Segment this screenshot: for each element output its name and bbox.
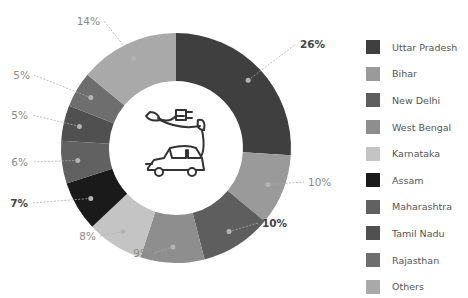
legend-swatch	[366, 200, 380, 214]
data-label: 8%	[79, 230, 96, 242]
data-label: 9%	[133, 247, 150, 259]
data-label: 7%	[10, 197, 28, 209]
legend-item: New Delhi	[366, 87, 457, 114]
legend-item: Karnataka	[366, 140, 457, 167]
legend-swatch	[366, 67, 380, 81]
data-label: 6%	[11, 156, 28, 168]
legend-swatch	[366, 280, 380, 294]
legend-item: Rajasthan	[366, 247, 457, 274]
legend-label: Assam	[392, 175, 423, 186]
legend-item: Uttar Pradesh	[366, 34, 457, 61]
legend-swatch	[366, 226, 380, 240]
legend-label: Tamil Nadu	[392, 228, 445, 239]
legend-label: New Delhi	[392, 95, 440, 106]
legend-swatch	[366, 253, 380, 267]
legend-label: Karnataka	[392, 148, 440, 159]
legend-item: Assam	[366, 167, 457, 194]
data-label: 10%	[262, 217, 288, 229]
chart-legend: Uttar PradeshBiharNew DelhiWest BengalKa…	[366, 34, 457, 298]
electric-car-icon	[146, 110, 204, 176]
legend-label: Bihar	[392, 68, 417, 79]
legend-swatch	[366, 147, 380, 161]
legend-item: Bihar	[366, 61, 457, 88]
slice-uttar-pradesh	[176, 33, 291, 155]
legend-swatch	[366, 120, 380, 134]
legend-swatch	[366, 93, 380, 107]
legend-label: West Bengal	[392, 122, 451, 133]
legend-item: West Bengal	[366, 114, 457, 141]
legend-label: Rajasthan	[392, 255, 439, 266]
legend-item: Maharashtra	[366, 194, 457, 221]
data-label: 26%	[300, 38, 326, 50]
legend-swatch	[366, 40, 380, 54]
legend-label: Uttar Pradesh	[392, 42, 457, 53]
legend-swatch	[366, 173, 380, 187]
legend-item: Tamil Nadu	[366, 220, 457, 247]
data-label: 5%	[11, 109, 28, 121]
data-label: 14%	[77, 15, 100, 27]
data-label: 10%	[308, 176, 331, 188]
legend-label: Others	[392, 281, 424, 292]
legend-item: Others	[366, 273, 457, 298]
data-label: 5%	[13, 69, 30, 81]
legend-label: Maharashtra	[392, 201, 452, 212]
